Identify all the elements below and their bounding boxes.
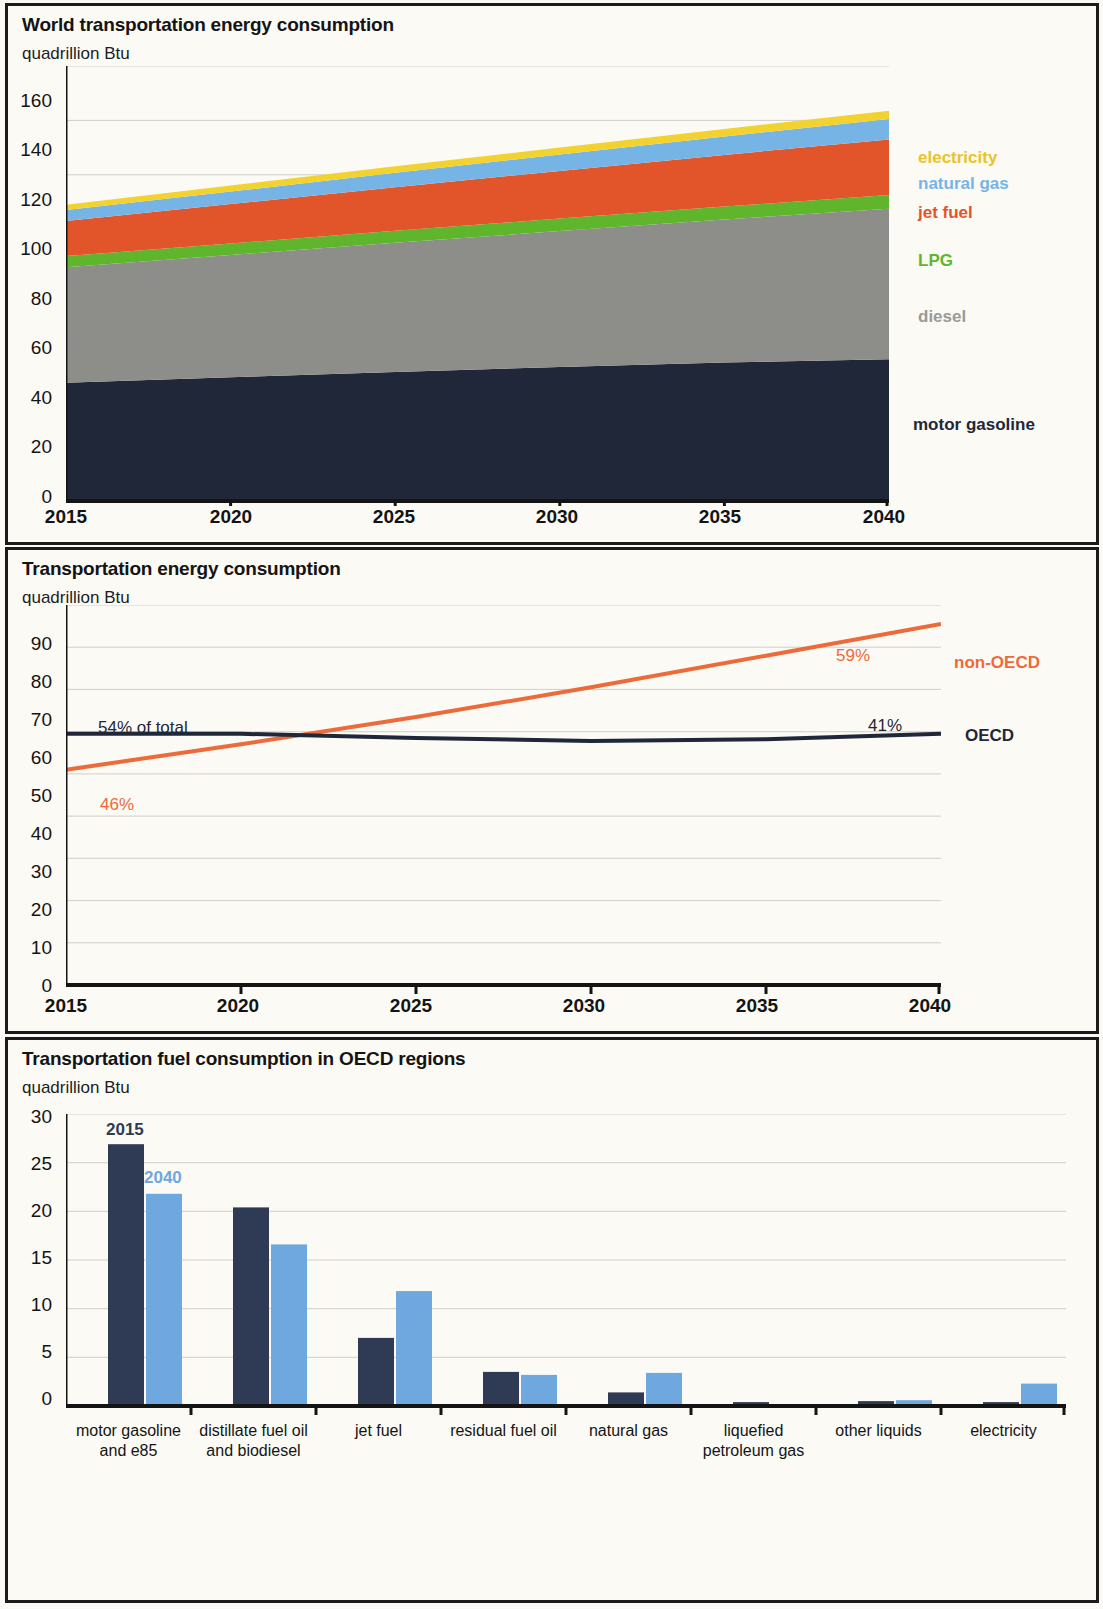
panel2-ytick-50: 50 xyxy=(6,785,52,807)
panel1-plot-area xyxy=(66,66,889,506)
bar-2040-natural-gas xyxy=(646,1373,682,1406)
panel2-ytick-20: 20 xyxy=(6,899,52,921)
panel1-ytick-160: 160 xyxy=(6,90,52,112)
panel1-ytick-20: 20 xyxy=(6,436,52,458)
bar-category-liquefied-petroleum-gas: liquefied petroleum gas xyxy=(691,1421,816,1461)
bar-2015-jet-fuel xyxy=(358,1338,394,1406)
panel2-xtick-2025: 2025 xyxy=(371,995,451,1017)
bar-category-jet-fuel: jet fuel xyxy=(316,1421,441,1441)
panel2-ytick-70: 70 xyxy=(6,709,52,731)
panel1-ytick-80: 80 xyxy=(6,288,52,310)
panel1-ytick-100: 100 xyxy=(6,238,52,260)
legend-label-natural-gas: natural gas xyxy=(918,174,1009,194)
panel3-gridlines xyxy=(66,1114,1066,1357)
panel1-svg xyxy=(66,66,889,506)
panel1-xtick-2040: 2040 xyxy=(844,506,924,528)
bar-2015-residual-fuel-oil xyxy=(483,1372,519,1406)
panel1-xtick-2020: 2020 xyxy=(191,506,271,528)
bar-2040-distillate xyxy=(271,1244,307,1406)
panel-oecd-fuel-consumption: Transportation fuel consumption in OECD … xyxy=(5,1037,1099,1603)
panel2-svg xyxy=(66,605,941,995)
annotation-41-percent: 41% xyxy=(868,716,902,736)
panel3-ytick-25: 25 xyxy=(6,1153,52,1175)
legend-label-motor-gasoline: motor gasoline xyxy=(913,415,1035,435)
bar-category-distillate-fuel-oil: distillate fuel oil and biodiesel xyxy=(191,1421,316,1461)
panel3-ytick-10: 10 xyxy=(6,1294,52,1316)
panel1-ytick-120: 120 xyxy=(6,189,52,211)
panel2-xtick-2030: 2030 xyxy=(544,995,624,1017)
bar-2015-motor-gasoline xyxy=(108,1144,144,1406)
panel1-xtick-2015: 2015 xyxy=(26,506,106,528)
area-motor-gasoline xyxy=(66,359,889,501)
panel2-ytick-80: 80 xyxy=(6,671,52,693)
legend-label-non-oecd: non-OECD xyxy=(954,653,1040,673)
annotation-59-percent: 59% xyxy=(836,646,870,666)
panel-transportation-energy-consumption: Transportation energy consumption quadri… xyxy=(5,547,1099,1034)
panel1-ytick-40: 40 xyxy=(6,387,52,409)
bar-2040-jet-fuel xyxy=(396,1291,432,1406)
panel3-title: Transportation fuel consumption in OECD … xyxy=(22,1048,465,1070)
panel2-xtick-2040: 2040 xyxy=(890,995,970,1017)
panel2-title: Transportation energy consumption xyxy=(22,558,341,580)
series-label-2015: 2015 xyxy=(106,1120,144,1140)
panel1-subtitle: quadrillion Btu xyxy=(22,44,130,64)
bar-2015-distillate xyxy=(233,1207,269,1406)
bar-category-other-liquids: other liquids xyxy=(816,1421,941,1441)
bar-2040-residual-fuel-oil xyxy=(521,1375,557,1406)
legend-label-lpg: LPG xyxy=(918,251,953,271)
bar-category-electricity: electricity xyxy=(941,1421,1066,1441)
panel-world-transportation-energy: World transportation energy consumption … xyxy=(5,3,1099,545)
bar-category-natural-gas: natural gas xyxy=(566,1421,691,1441)
panel2-xtick-2035: 2035 xyxy=(717,995,797,1017)
panel3-plot-area xyxy=(66,1114,1066,1419)
annotation-54-percent-of-total: 54% of total xyxy=(98,718,188,738)
bar-category-motor-gasoline-and-e85: motor gasoline and e85 xyxy=(66,1421,191,1461)
panel1-ytick-0: 0 xyxy=(6,486,52,508)
panel1-title: World transportation energy consumption xyxy=(22,14,394,36)
panel3-ytick-15: 15 xyxy=(6,1247,52,1269)
panel2-ytick-40: 40 xyxy=(6,823,52,845)
series-label-2040: 2040 xyxy=(144,1168,182,1188)
legend-label-electricity: electricity xyxy=(918,148,997,168)
bar-category-residual-fuel-oil: residual fuel oil xyxy=(441,1421,566,1441)
legend-label-jet-fuel: jet fuel xyxy=(918,203,973,223)
panel2-plot-area xyxy=(66,605,941,995)
annotation-46-percent: 46% xyxy=(100,795,134,815)
panel1-xtick-2025: 2025 xyxy=(354,506,434,528)
panel3-ytick-20: 20 xyxy=(6,1200,52,1222)
panel3-ytick-0: 0 xyxy=(6,1388,52,1410)
panel2-ytick-60: 60 xyxy=(6,747,52,769)
figure-root: World transportation energy consumption … xyxy=(0,0,1103,1609)
panel1-xtick-2030: 2030 xyxy=(517,506,597,528)
panel3-ytick-30: 30 xyxy=(6,1106,52,1128)
bar-2015-natural-gas xyxy=(608,1392,644,1406)
panel1-ytick-140: 140 xyxy=(6,139,52,161)
panel2-xtick-2015: 2015 xyxy=(26,995,106,1017)
panel3-svg xyxy=(66,1114,1066,1419)
line-oecd xyxy=(66,734,941,741)
legend-label-diesel: diesel xyxy=(918,307,966,327)
panel2-xtick-2020: 2020 xyxy=(198,995,278,1017)
panel2-ytick-90: 90 xyxy=(6,633,52,655)
panel2-ytick-30: 30 xyxy=(6,861,52,883)
bar-2040-electricity xyxy=(1021,1384,1057,1406)
panel2-ytick-10: 10 xyxy=(6,937,52,959)
panel2-gridlines xyxy=(66,605,941,943)
panel1-ytick-60: 60 xyxy=(6,337,52,359)
bar-2040-motor-gasoline xyxy=(146,1194,182,1406)
panel3-subtitle: quadrillion Btu xyxy=(22,1078,130,1098)
panel3-ytick-5: 5 xyxy=(6,1341,52,1363)
panel1-xtick-2035: 2035 xyxy=(680,506,760,528)
panel2-ytick-0: 0 xyxy=(6,975,52,997)
legend-label-oecd: OECD xyxy=(965,726,1014,746)
line-non-oecd xyxy=(66,624,941,770)
